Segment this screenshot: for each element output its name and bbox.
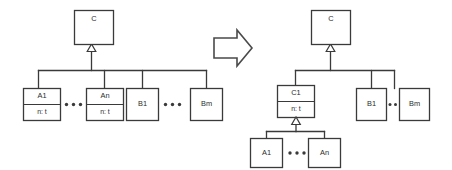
class-name-label: C1 — [291, 88, 300, 97]
after-class-c1: C1 n: t — [278, 86, 315, 118]
before-ellipsis-a — [65, 103, 82, 106]
ellipsis-dot — [72, 103, 75, 106]
after-ellipsis-a — [288, 151, 305, 154]
uml-refactoring-diagram: C A1 n: t An n: t — [0, 0, 452, 170]
after-class-a1: A1 — [251, 139, 283, 168]
after-ellipsis-b — [389, 103, 398, 106]
ellipsis-dot — [295, 151, 298, 154]
class-name-label: B1 — [367, 99, 376, 108]
ellipsis-dot — [79, 103, 82, 106]
before-class-b1: B1 — [127, 89, 159, 121]
before-class-a1: A1 n: t — [24, 89, 61, 121]
class-name-label: C — [91, 14, 97, 23]
after-class-c: C — [312, 11, 351, 45]
ellipsis-dot — [288, 151, 291, 154]
ellipsis-dot — [164, 103, 167, 106]
before-ellipsis-b — [164, 103, 181, 106]
ellipsis-dot — [394, 103, 397, 106]
after-diagram: C C1 n: t A1 — [251, 11, 430, 168]
before-class-an: An n: t — [87, 89, 124, 121]
before-diagram: C A1 n: t An n: t — [24, 11, 223, 121]
before-class-c: C — [75, 11, 114, 45]
class-name-label: An — [100, 91, 109, 100]
class-attribute-label: n: t — [37, 108, 47, 115]
after-class-b1: B1 — [357, 89, 387, 121]
diagram-canvas: C A1 n: t An n: t — [0, 0, 452, 170]
class-attribute-label: n: t — [100, 108, 110, 115]
before-generalization-links — [39, 51, 207, 89]
class-name-label: A1 — [37, 91, 46, 100]
transform-arrow-right-icon — [214, 30, 252, 66]
ellipsis-dot — [65, 103, 68, 106]
ellipsis-dot — [171, 103, 174, 106]
class-name-label: C — [328, 14, 334, 23]
class-name-label: An — [320, 148, 329, 157]
after-generalization-links — [296, 51, 395, 89]
after-c1-generalization-links — [267, 124, 325, 139]
before-class-bm: Bm — [191, 89, 223, 121]
ellipsis-dot — [302, 151, 305, 154]
class-name-label: Bm — [409, 99, 420, 108]
class-attribute-label: n: t — [291, 105, 301, 112]
ellipsis-dot — [389, 103, 392, 106]
class-name-label: Bm — [201, 99, 212, 108]
ellipsis-dot — [178, 103, 181, 106]
after-class-bm: Bm — [400, 89, 430, 121]
class-name-label: B1 — [138, 99, 147, 108]
class-name-label: A1 — [262, 148, 271, 157]
after-class-an: An — [309, 139, 341, 168]
